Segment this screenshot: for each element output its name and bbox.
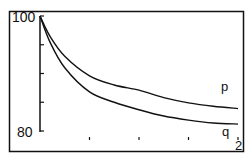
x-tick-label-2: 2 bbox=[235, 139, 242, 152]
series-label-q: q bbox=[222, 125, 229, 138]
x-axis-ticks bbox=[90, 137, 239, 140]
line-chart bbox=[0, 0, 248, 157]
chart-frame bbox=[10, 12, 244, 152]
y-tick-label-80: 80 bbox=[17, 125, 33, 139]
series-q-line bbox=[40, 16, 238, 124]
series-p-line bbox=[40, 16, 238, 109]
series-label-p: p bbox=[221, 80, 228, 93]
y-tick-label-100: 100 bbox=[12, 10, 35, 24]
